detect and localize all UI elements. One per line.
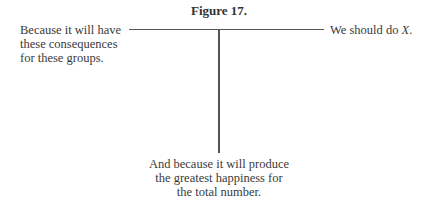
premise-happiness-line-2: the greatest happiness for: [130, 171, 308, 185]
conclusion-prefix: We should do: [330, 23, 402, 37]
premise-happiness: And because it will produce the greatest…: [130, 157, 308, 199]
vertical-connector: [218, 30, 220, 153]
premise-happiness-line-1: And because it will produce: [130, 157, 308, 171]
conclusion: We should do X.: [330, 23, 412, 37]
horizontal-connector: [129, 29, 324, 30]
premise-consequences: Because it will have these consequences …: [20, 23, 130, 65]
premise-consequences-line-2: these consequences: [20, 37, 130, 51]
premise-consequences-line-3: for these groups.: [20, 51, 130, 65]
premise-consequences-line-1: Because it will have: [20, 23, 130, 37]
figure-title: Figure 17.: [0, 3, 438, 19]
premise-happiness-line-3: the total number.: [130, 185, 308, 199]
conclusion-suffix: .: [409, 23, 412, 37]
